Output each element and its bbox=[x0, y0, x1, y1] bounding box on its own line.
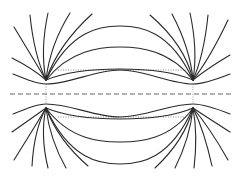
field-lines-svg bbox=[0, 0, 242, 178]
field-line-diagram: Field lines between two poles bbox=[0, 0, 242, 178]
lower-field-lines bbox=[12, 104, 230, 168]
upper-field-lines bbox=[12, 13, 230, 84]
